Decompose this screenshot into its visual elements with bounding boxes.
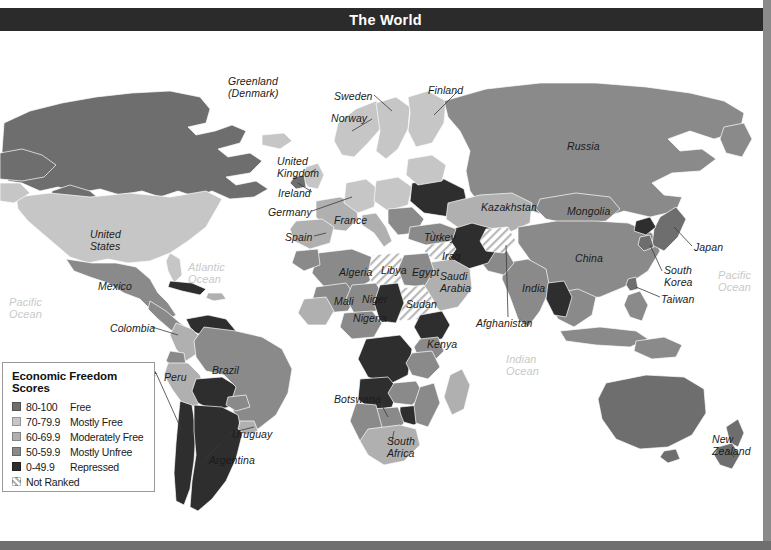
page-title: The World xyxy=(349,12,421,28)
map-label-algeria: Algeria xyxy=(339,267,372,279)
map-label-pacific-ocean-east: Pacific Ocean xyxy=(718,270,751,293)
legend-item-4[interactable]: 0-49.9Repressed xyxy=(12,459,146,474)
map-label-colombia: Colombia xyxy=(110,323,155,335)
map-label-south-africa: South Africa xyxy=(387,436,415,459)
map-title-bar: The World xyxy=(0,8,771,31)
legend-item-5[interactable]: Not Ranked xyxy=(12,474,146,489)
page-bottom-edge xyxy=(0,541,771,550)
map-label-china: China xyxy=(575,253,603,265)
legend-range-label: 50-59.9 xyxy=(26,446,70,458)
map-label-france: France xyxy=(334,215,367,227)
legend-swatch-icon xyxy=(12,432,21,441)
map-label-pacific-ocean-west: Pacific Ocean xyxy=(9,297,42,320)
map-label-argentina: Argentina xyxy=(209,455,255,467)
map-label-ireland: Ireland xyxy=(278,188,311,200)
map-label-uruguay: Uruguay xyxy=(232,429,272,441)
map-label-peru: Peru xyxy=(164,372,187,384)
page-right-edge xyxy=(763,0,771,550)
map-label-indian-ocean: Indian Ocean xyxy=(506,354,539,377)
legend-range-label: Not Ranked xyxy=(26,476,79,488)
legend-swatch-icon xyxy=(12,402,21,411)
legend-swatch-icon xyxy=(12,462,21,471)
legend-desc-label: Mostly Free xyxy=(70,416,123,428)
legend-range-label: 0-49.9 xyxy=(26,461,70,473)
map-label-russia: Russia xyxy=(567,141,600,153)
legend-title: Economic Freedom Scores xyxy=(12,370,146,394)
map-label-egypt: Egypt xyxy=(412,267,439,279)
map-label-iraq: Iraq xyxy=(442,251,461,263)
map-label-united-kingdom: United Kingdom xyxy=(277,156,319,179)
map-label-niger: Niger xyxy=(362,294,388,306)
legend-range-label: 80-100 xyxy=(26,401,70,413)
map-label-mali: Mali xyxy=(334,296,354,308)
map-label-spain: Spain xyxy=(285,232,312,244)
region-antarctica xyxy=(0,529,771,534)
map-label-atlantic-ocean: Atlantic Ocean xyxy=(188,262,225,285)
map-label-kazakhstan: Kazakhstan xyxy=(481,202,537,214)
map-label-libya: Libya xyxy=(381,265,407,277)
map-label-saudi-arabia: Saudi Arabia xyxy=(440,271,471,294)
map-label-turkey: Turkey xyxy=(424,232,456,244)
map-label-united-states: United States xyxy=(90,229,121,252)
legend-rows: 80-100Free70-79.9Mostly Free60-69.9Moder… xyxy=(12,399,146,489)
legend-swatch-icon xyxy=(12,417,21,426)
map-label-nigeria: Nigeria xyxy=(353,313,387,325)
map-label-mongolia: Mongolia xyxy=(567,206,610,218)
page-top-margin xyxy=(0,0,771,8)
legend-desc-label: Mostly Unfree xyxy=(70,446,132,458)
world-map-page: The World xyxy=(0,0,771,550)
map-legend[interactable]: Economic Freedom Scores 80-100Free70-79.… xyxy=(2,362,155,492)
map-label-taiwan: Taiwan xyxy=(661,294,694,306)
map-label-afghanistan: Afghanistan xyxy=(476,318,533,330)
legend-item-3[interactable]: 50-59.9Mostly Unfree xyxy=(12,444,146,459)
legend-range-label: 70-79.9 xyxy=(26,416,70,428)
map-label-south-korea: South Korea xyxy=(664,265,693,288)
map-label-germany: Germany xyxy=(268,207,312,219)
legend-item-1[interactable]: 70-79.9Mostly Free xyxy=(12,414,146,429)
legend-desc-label: Free xyxy=(70,401,91,413)
map-label-india: India xyxy=(522,283,545,295)
map-label-japan: Japan xyxy=(694,242,723,254)
map-label-finland: Finland xyxy=(428,85,463,97)
legend-desc-label: Moderately Free xyxy=(70,431,143,443)
legend-item-0[interactable]: 80-100Free xyxy=(12,399,146,414)
map-label-sweden: Sweden xyxy=(334,91,373,103)
map-label-greenland: Greenland (Denmark) xyxy=(228,76,279,99)
legend-range-label: 60-69.9 xyxy=(26,431,70,443)
map-label-norway: Norway xyxy=(331,113,367,125)
map-label-botswana: Botswana xyxy=(334,394,381,406)
map-label-brazil: Brazil xyxy=(212,365,239,377)
map-label-sudan: Sudan xyxy=(406,299,437,311)
legend-item-2[interactable]: 60-69.9Moderately Free xyxy=(12,429,146,444)
map-label-kenya: Kenya xyxy=(427,339,457,351)
map-label-new-zealand: New Zealand xyxy=(712,434,751,457)
legend-swatch-icon xyxy=(12,477,21,486)
legend-desc-label: Repressed xyxy=(70,461,119,473)
map-label-mexico: Mexico xyxy=(98,281,132,293)
legend-swatch-icon xyxy=(12,447,21,456)
